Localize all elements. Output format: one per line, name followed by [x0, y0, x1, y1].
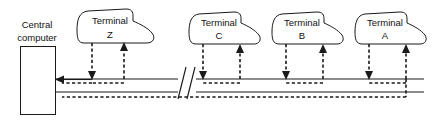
terminal-b-node[interactable]: Terminal B: [272, 12, 343, 80]
terminal-a-label-line2: A: [382, 30, 389, 41]
multidrop-bus-diagram: Central computer: [0, 0, 436, 130]
terminal-z-node[interactable]: Terminal Z: [77, 9, 154, 80]
central-computer-label-line2: computer: [17, 32, 57, 43]
bus-break-symbol: [178, 67, 196, 100]
central-computer-box: [21, 47, 56, 115]
terminal-c-label-line2: C: [216, 30, 223, 41]
terminal-a-node[interactable]: Terminal A: [355, 12, 426, 80]
terminal-z-label-line2: Z: [107, 29, 113, 40]
terminal-c-label-line1: Terminal: [201, 17, 237, 28]
terminal-b-up-arrowhead: [319, 44, 327, 53]
terminal-c-up-arrowhead: [236, 44, 244, 53]
terminal-a-label-line1: Terminal: [367, 17, 403, 28]
terminal-c-node[interactable]: Terminal C: [189, 12, 260, 80]
central-computer-node: Central computer: [17, 19, 57, 115]
terminal-a-up-arrowhead: [402, 44, 410, 53]
diagram-canvas: Central computer: [0, 0, 436, 130]
terminal-b-label-line1: Terminal: [284, 17, 320, 28]
dashed-return-path: [62, 79, 406, 97]
central-computer-label-line1: Central: [22, 19, 53, 30]
terminal-b-label-line2: B: [299, 30, 305, 41]
terminal-z-label-line1: Terminal: [92, 15, 128, 26]
